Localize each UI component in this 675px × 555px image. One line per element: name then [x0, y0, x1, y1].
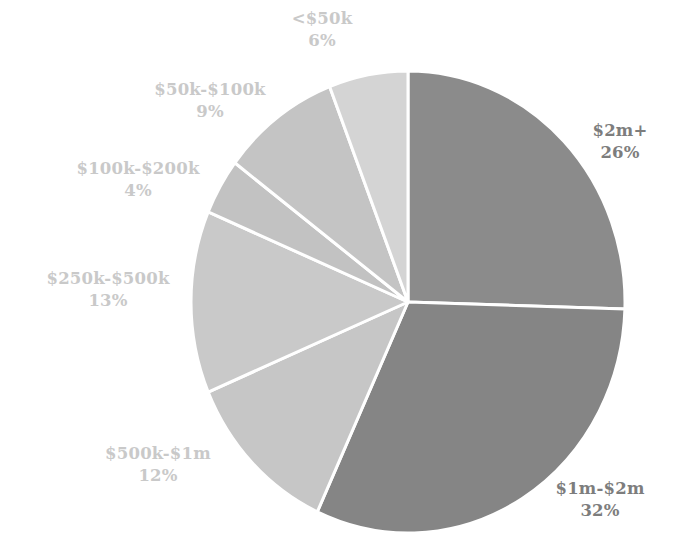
pie-label-50k-100k-name: $50k-$100k: [110, 79, 310, 101]
pie-label-50k-100k: $50k-$100k 9%: [110, 79, 310, 123]
pie-slice-2mplus[interactable]: [408, 71, 625, 309]
pie-label-2m-plus-percent: 26%: [568, 142, 672, 164]
pie-chart: <$50k 6% $50k-$100k 9% $100k-$200k 4% $2…: [0, 0, 675, 555]
pie-label-1m-2m: $1m-$2m 32%: [528, 478, 672, 522]
pie-label-250k-500k: $250k-$500k 13%: [8, 268, 208, 312]
pie-label-2m-plus: $2m+ 26%: [568, 120, 672, 164]
pie-label-50k-100k-percent: 9%: [110, 101, 310, 123]
pie-label-500k-1m: $500k-$1m 12%: [58, 443, 258, 487]
pie-label-1m-2m-name: $1m-$2m: [528, 478, 672, 500]
pie-label-1m-2m-percent: 32%: [528, 500, 672, 522]
pie-label-250k-500k-name: $250k-$500k: [8, 268, 208, 290]
pie-label-lt50k-percent: 6%: [242, 30, 402, 52]
pie-label-500k-1m-percent: 12%: [58, 465, 258, 487]
pie-label-100k-200k-name: $100k-$200k: [38, 158, 238, 180]
pie-label-lt50k: <$50k 6%: [242, 8, 402, 52]
pie-label-500k-1m-name: $500k-$1m: [58, 443, 258, 465]
pie-label-lt50k-name: <$50k: [242, 8, 402, 30]
pie-label-250k-500k-percent: 13%: [8, 290, 208, 312]
pie-label-2m-plus-name: $2m+: [568, 120, 672, 142]
pie-label-100k-200k: $100k-$200k 4%: [38, 158, 238, 202]
pie-label-100k-200k-percent: 4%: [38, 180, 238, 202]
